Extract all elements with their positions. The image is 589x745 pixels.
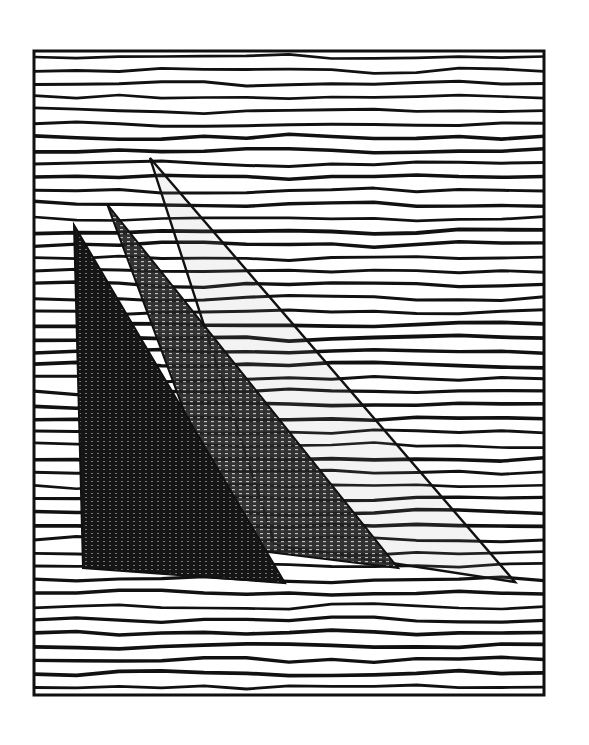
sea-line bbox=[34, 134, 544, 139]
sea-line bbox=[34, 161, 544, 166]
sea-line bbox=[34, 175, 544, 179]
sea-line bbox=[34, 604, 544, 609]
sea-line bbox=[34, 630, 544, 635]
sea-line bbox=[34, 68, 544, 73]
sea-line bbox=[34, 269, 544, 273]
sea-line bbox=[34, 644, 544, 649]
sea-line bbox=[34, 242, 544, 248]
sea-line bbox=[34, 256, 544, 260]
sea-line bbox=[34, 217, 544, 221]
sea-line bbox=[34, 149, 544, 153]
sailboat-illustration bbox=[0, 0, 589, 745]
sea-line bbox=[34, 188, 544, 193]
sea-line bbox=[34, 671, 544, 676]
sea-line bbox=[34, 577, 544, 583]
sea-line bbox=[34, 657, 544, 662]
sea-line bbox=[34, 201, 544, 206]
sea-line bbox=[34, 685, 544, 689]
sea-line bbox=[34, 54, 544, 58]
sea-line bbox=[34, 617, 544, 622]
sea-line bbox=[34, 229, 544, 234]
sea-line bbox=[34, 81, 544, 86]
sea-line bbox=[34, 590, 544, 595]
sails-group bbox=[74, 158, 515, 583]
sea-line bbox=[34, 108, 544, 114]
sea-line bbox=[34, 122, 544, 126]
sea-line bbox=[34, 95, 544, 99]
